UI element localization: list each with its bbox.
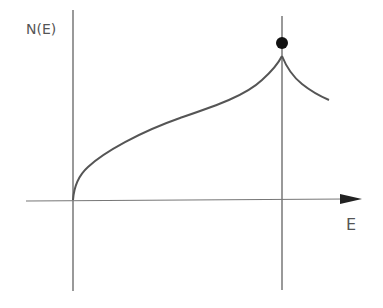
- axis-arrowhead-icon: [340, 194, 362, 204]
- density-of-states-diagram: [0, 0, 383, 308]
- x-axis-label: E: [346, 215, 356, 234]
- dos-curve-right: [282, 56, 329, 100]
- singularity-dot: [276, 37, 288, 49]
- y-axis-label: N(E): [26, 21, 56, 37]
- dos-curve-left: [73, 56, 282, 200]
